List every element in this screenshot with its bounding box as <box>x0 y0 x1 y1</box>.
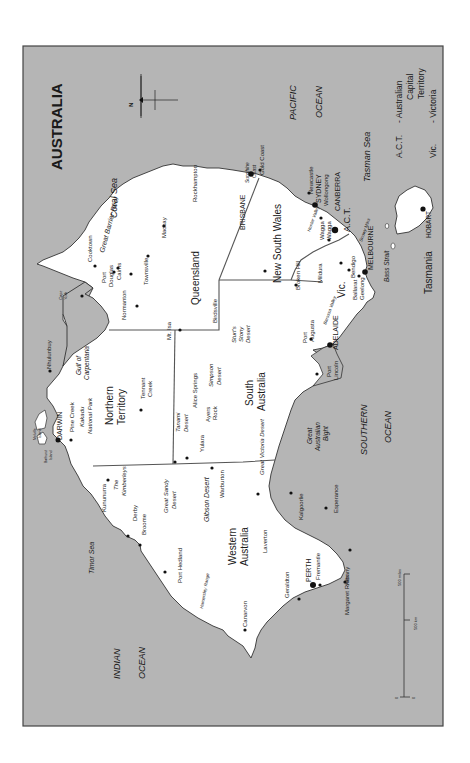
svg-text:Sturt's: Sturt's <box>231 326 237 343</box>
svg-text:Esperance: Esperance <box>333 484 339 513</box>
svg-text:Alice Springs: Alice Springs <box>192 373 198 408</box>
svg-text:Douglas: Douglas <box>108 265 114 287</box>
svg-text:Vic.: Vic. <box>336 282 347 299</box>
svg-text:Stony: Stony <box>238 326 244 342</box>
svg-text:A.C.T.: A.C.T. <box>394 135 404 158</box>
svg-text:Island: Island <box>38 429 42 438</box>
svg-text:Desert: Desert <box>183 414 189 432</box>
svg-text:Melville: Melville <box>33 428 37 440</box>
svg-text:Vic.: Vic. <box>428 144 438 158</box>
svg-text:Territory: Territory <box>116 389 127 425</box>
svg-text:Birdsville: Birdsville <box>212 298 218 323</box>
svg-text:Albany: Albany <box>344 567 350 585</box>
svg-text:DARWIN: DARWIN <box>56 412 63 440</box>
svg-text:Simpson: Simpson <box>208 363 214 387</box>
svg-text:Laverton: Laverton <box>262 530 268 553</box>
svg-text:New South Wales: New South Wales <box>272 204 283 283</box>
svg-text:Great: Great <box>306 427 313 444</box>
svg-text:Townsville: Townsville <box>143 257 149 285</box>
svg-text:Desert: Desert <box>245 325 251 343</box>
svg-text:Tasmania: Tasmania <box>423 251 434 294</box>
svg-text:Cooktown: Cooktown <box>87 235 93 262</box>
svg-text:Port: Port <box>101 272 107 283</box>
svg-text:Rockhampton: Rockhampton <box>192 165 198 202</box>
svg-text:OCEAN: OCEAN <box>314 85 324 118</box>
svg-text:Great Victoria Desert: Great Victoria Desert <box>259 419 265 475</box>
svg-text:Broken Hill: Broken Hill <box>295 261 301 290</box>
svg-text:Wollongong: Wollongong <box>323 174 329 206</box>
svg-text:ADELAIDE: ADELAIDE <box>332 315 339 350</box>
svg-text:Mackay: Mackay <box>161 217 167 238</box>
svg-text:Ayers: Ayers <box>205 407 211 422</box>
svg-text:Australian: Australian <box>314 422 321 452</box>
svg-text:SOUTHERN: SOUTHERN <box>359 404 369 455</box>
svg-text:Canarvon: Canarvon <box>242 601 248 627</box>
svg-text:500 miles: 500 miles <box>397 569 402 586</box>
svg-text:Fremantle: Fremantle <box>315 552 321 580</box>
svg-text:Bendigo: Bendigo <box>350 255 356 278</box>
svg-text:Gibson Desert: Gibson Desert <box>203 476 210 522</box>
svg-text:Geelong: Geelong <box>359 277 365 300</box>
svg-text:Bathurst: Bathurst <box>44 450 48 463</box>
svg-text:Lincoln: Lincoln <box>333 361 339 380</box>
svg-text:Cairns: Cairns <box>116 263 122 280</box>
svg-text:500 km: 500 km <box>413 616 418 630</box>
svg-text:Port Hedland: Port Hedland <box>177 548 183 583</box>
svg-text:INDIAN: INDIAN <box>112 648 122 679</box>
svg-text:Desert: Desert <box>216 367 222 385</box>
svg-text:Nhulunbuy: Nhulunbuy <box>46 340 52 369</box>
svg-text:Yulara: Yulara <box>199 434 205 452</box>
svg-text:- Australian: - Australian <box>394 80 404 123</box>
svg-text:Augusta: Augusta <box>309 319 315 342</box>
svg-text:Warburton: Warburton <box>219 470 225 498</box>
svg-text:Mildura: Mildura <box>317 263 323 283</box>
svg-text:HOBART: HOBART <box>425 211 432 238</box>
svg-text:Port: Port <box>302 332 308 343</box>
svg-text:Ballarat: Ballarat <box>352 279 358 300</box>
svg-text:SYDNEY: SYDNEY <box>315 174 322 203</box>
svg-text:Kakadu: Kakadu <box>79 406 85 427</box>
svg-text:Rock: Rock <box>212 405 218 420</box>
svg-text:Territory: Territory <box>416 68 426 99</box>
svg-text:Tasman Sea: Tasman Sea <box>362 132 372 182</box>
australia-map: AUSTRALIA N A.C.T. - Australian Capital … <box>0 0 470 763</box>
svg-text:Newcastle: Newcastle <box>308 166 314 194</box>
svg-text:Kununurra: Kununurra <box>101 483 107 512</box>
svg-text:Carpentaria: Carpentaria <box>83 346 91 380</box>
svg-text:Gold Coast: Gold Coast <box>259 145 265 175</box>
svg-text:South: South <box>244 380 255 406</box>
svg-text:OCEAN: OCEAN <box>383 410 393 443</box>
svg-text:Creek: Creek <box>147 380 153 397</box>
svg-text:BRISBANE: BRISBANE <box>239 194 246 230</box>
svg-text:Timor Sea: Timor Sea <box>88 542 95 574</box>
svg-text:PACIFIC: PACIFIC <box>288 85 298 120</box>
svg-text:Wagga: Wagga <box>326 221 332 240</box>
svg-text:Australia: Australia <box>239 527 250 566</box>
svg-text:Desert: Desert <box>171 491 177 509</box>
svg-text:Pine Creek: Pine Creek <box>69 401 75 432</box>
svg-text:Tanami: Tanami <box>175 412 181 432</box>
svg-text:A.C.T.: A.C.T. <box>342 207 352 232</box>
svg-text:Great Sandy: Great Sandy <box>163 478 169 513</box>
svg-text:The: The <box>113 479 119 490</box>
svg-text:OCEAN: OCEAN <box>137 646 147 679</box>
map-title: AUSTRALIA <box>48 83 65 170</box>
svg-text:Northern: Northern <box>104 386 115 425</box>
svg-text:Australia: Australia <box>256 372 267 411</box>
svg-text:Kalgoorlie: Kalgoorlie <box>298 493 304 520</box>
svg-text:MELBOURNE: MELBOURNE <box>367 225 374 270</box>
north-label: N <box>128 103 134 107</box>
svg-text:Port: Port <box>326 366 332 377</box>
svg-text:Sunshine: Sunshine <box>244 162 250 183</box>
svg-text:Geraldton: Geraldton <box>284 572 290 598</box>
svg-text:Queensland: Queensland <box>190 251 201 305</box>
svg-text:Bight: Bight <box>322 425 330 441</box>
svg-text:Western: Western <box>227 528 238 565</box>
svg-text:Capital: Capital <box>405 73 415 100</box>
svg-text:Mt. Isa: Mt. Isa <box>166 321 172 340</box>
svg-text:Wagga: Wagga <box>319 221 325 240</box>
svg-text:Derby: Derby <box>132 505 138 521</box>
svg-text:Island: Island <box>49 451 53 460</box>
svg-text:- Victoria: - Victoria <box>428 89 438 123</box>
svg-text:Bass Strait: Bass Strait <box>383 249 390 282</box>
